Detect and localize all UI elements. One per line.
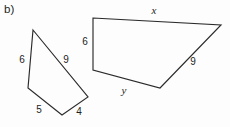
left-side-length-4: 4 [76, 107, 82, 117]
right-quadrilateral [93, 18, 221, 88]
left-side-length-9: 9 [63, 55, 69, 65]
right-side-length-6: 6 [82, 37, 88, 47]
left-quadrilateral [28, 30, 88, 115]
right-side-length-x: x [152, 5, 157, 16]
right-side-length-y: y [122, 85, 127, 96]
right-side-length-9: 9 [190, 57, 196, 67]
left-side-length-5: 5 [36, 105, 42, 115]
geometry-figure: b) 6 9 5 4 x 6 9 y [0, 0, 230, 127]
left-side-length-6: 6 [19, 55, 25, 65]
